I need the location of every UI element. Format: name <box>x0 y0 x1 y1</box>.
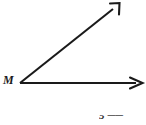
up-right-arrowhead-icon <box>110 3 120 15</box>
diagonal-ray-line <box>20 9 113 83</box>
cropped-caption-text: 5 <box>99 115 105 121</box>
vertex-label-m: M <box>3 74 14 86</box>
angle-figure: M 5▀▀ <box>0 0 146 125</box>
cropped-bottom-caption: 5▀▀ <box>99 115 139 125</box>
cropped-ray-symbol-icon: ▀▀ <box>108 115 124 121</box>
angle-diagram-svg <box>0 0 146 125</box>
